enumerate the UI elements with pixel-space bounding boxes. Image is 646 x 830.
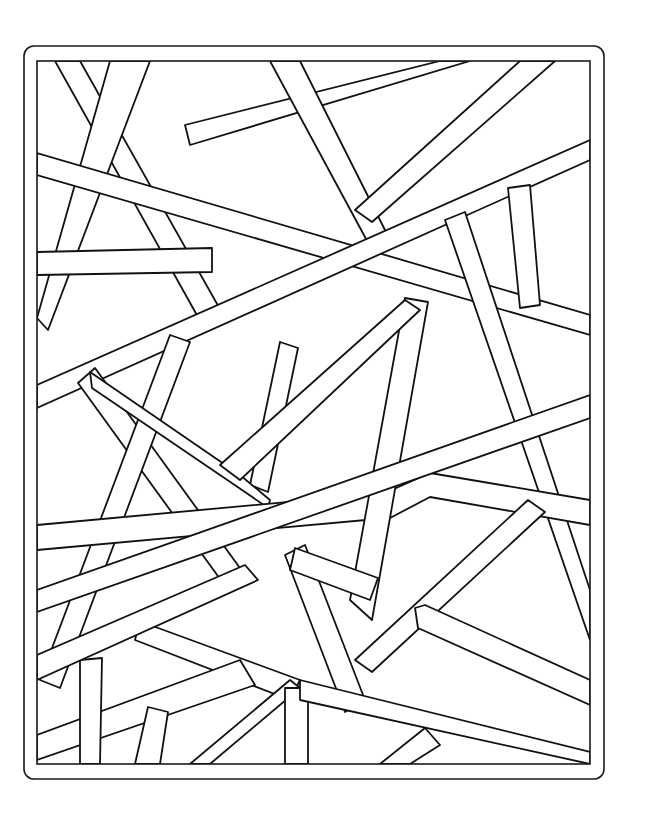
- bar-shape-30: [380, 728, 440, 764]
- bars-group: [37, 61, 590, 764]
- bar-shape-9: [508, 185, 540, 308]
- bar-shape-7: [37, 248, 212, 275]
- bar-shape-32: [300, 680, 590, 764]
- bar-shape-16: [385, 473, 590, 525]
- bar-shape-23: [415, 605, 590, 705]
- coloring-artwork: [0, 0, 646, 830]
- bar-shape-26: [80, 658, 102, 764]
